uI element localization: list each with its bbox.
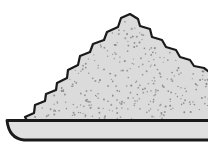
sand-heap-on-tray-illustration: [0, 0, 208, 153]
illustration-canvas: [0, 0, 208, 153]
tray-shape: [7, 121, 208, 141]
